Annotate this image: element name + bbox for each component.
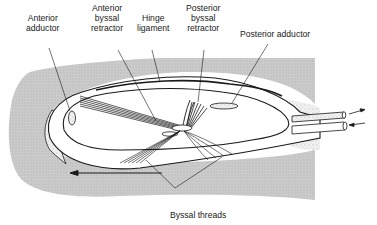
label-hinge-ligament: Hinge ligament [137,13,169,33]
label-line: Anterior [91,3,123,13]
label-line: Anterior [26,13,59,23]
label-line: byssal [91,13,123,23]
byssal-gland [172,125,192,131]
label-line: Posterior adductor [240,29,310,39]
posterior-adductor [210,103,238,109]
label-line: retractor [91,23,123,33]
label-line: Posterior [186,3,220,13]
label-anterior-byssal-retractor: Anterior byssal retractor [91,3,123,33]
label-line: retractor [186,23,220,33]
label-line: adductor [26,23,59,33]
label-posterior-byssal-retractor: Posterior byssal retractor [186,3,220,33]
label-anterior-adductor: Anterior adductor [26,13,59,33]
label-byssal-threads: Byssal threads [170,210,226,220]
label-line: Hinge [137,13,169,23]
label-line: Byssal threads [170,210,226,220]
label-posterior-adductor: Posterior adductor [240,29,310,39]
anterior-adductor [69,111,76,125]
label-line: byssal [186,13,220,23]
label-line: ligament [137,23,169,33]
siphon-flow-arrows [349,109,365,127]
mussel-diagram [0,0,377,225]
